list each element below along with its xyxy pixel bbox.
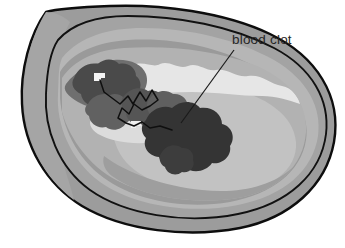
illustration-canvas: blood clot — [0, 0, 345, 248]
blood-clot-illustration: blood clot — [0, 0, 345, 248]
label-blood-clot: blood clot — [232, 32, 292, 47]
